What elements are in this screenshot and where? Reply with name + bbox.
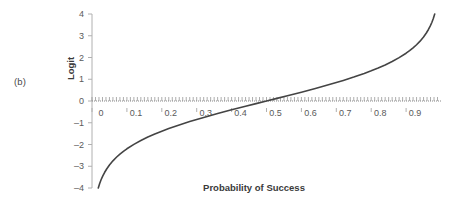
x-tick-label: 0.5 xyxy=(269,108,282,118)
y-axis-tick-marks xyxy=(88,14,92,188)
x-tick-label: 0.4 xyxy=(234,108,247,118)
x-tick-label: 0.1 xyxy=(130,108,143,118)
x-tick-label: 0 xyxy=(98,108,103,118)
x-tick-label: 0.6 xyxy=(304,108,317,118)
y-axis-tick-labels: 43210–1–2–3–4 xyxy=(74,9,84,193)
x-tick-label: 0.9 xyxy=(409,108,422,118)
y-tick-label: 0 xyxy=(79,96,84,106)
x-axis-group: 00.10.20.30.40.50.60.70.80.9 xyxy=(92,97,441,118)
x-axis-tick-labels: 00.10.20.30.40.50.60.70.80.9 xyxy=(98,108,421,118)
y-tick-label: 3 xyxy=(79,31,84,41)
x-tick-label: 0.8 xyxy=(374,108,387,118)
y-tick-label: –2 xyxy=(74,140,84,150)
y-tick-label: –3 xyxy=(74,161,84,171)
y-tick-label: –4 xyxy=(74,183,84,193)
logit-chart-plot: 43210–1–2–3–4 00.10.20.30.40.50.60.70.80… xyxy=(0,0,458,207)
y-axis-group: 43210–1–2–3–4 xyxy=(74,9,92,193)
x-tick-label: 0.2 xyxy=(165,108,178,118)
y-tick-label: 2 xyxy=(79,53,84,63)
x-tick-label: 0.7 xyxy=(339,108,352,118)
y-tick-label: –1 xyxy=(74,118,84,128)
figure-panel: (b) Logit Probability of Success 43210–1… xyxy=(0,0,458,207)
y-tick-label: 1 xyxy=(79,74,84,84)
y-tick-label: 4 xyxy=(79,9,84,19)
x-axis-minor-tick-marks xyxy=(92,97,438,101)
